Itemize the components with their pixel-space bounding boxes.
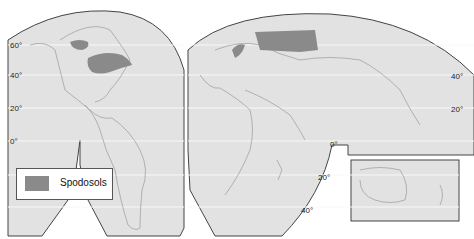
legend-swatch-spodosols	[25, 176, 49, 191]
world-map	[0, 0, 474, 239]
lat-label-40-africa: 40°	[301, 206, 313, 215]
legend: Spodosols	[16, 168, 113, 200]
lat-label-60-west: 60°	[10, 41, 22, 50]
lat-label-40-east: 40°	[451, 72, 463, 81]
lat-label-20-east: 20°	[451, 105, 463, 114]
lat-label-20-africa: 20°	[318, 173, 330, 182]
lat-label-0-africa: 0°	[330, 140, 338, 149]
lat-label-0-west: 0°	[10, 137, 18, 146]
lat-label-20-west: 20°	[10, 104, 22, 113]
australia-inset	[351, 160, 459, 221]
spodosols-russia	[255, 30, 318, 52]
lat-label-40-west: 40°	[10, 71, 22, 80]
legend-label-spodosols: Spodosols	[60, 177, 107, 188]
